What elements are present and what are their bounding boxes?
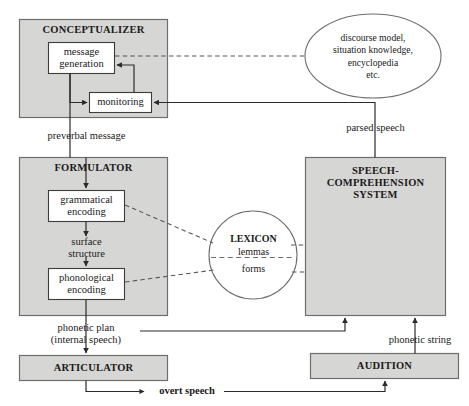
inner-message-generation-box [49, 43, 115, 74]
inner-phonological-encoding-box [49, 269, 125, 300]
edge-parsed-speech-to-monitoring [154, 103, 375, 158]
edge-phonetic-plan-to-scs [140, 318, 345, 331]
module-audition-box [311, 354, 459, 379]
diagram-canvas: CONCEPTUALIZER message generation monito… [0, 0, 469, 406]
inner-monitoring-box [90, 93, 152, 113]
ellipse-lexicon [209, 211, 297, 299]
module-speech-comprehension-box [306, 158, 446, 316]
inner-grammatical-encoding-box [49, 191, 125, 222]
ellipse-knowledge-store [305, 14, 441, 98]
diagram-vector-layer [0, 0, 469, 406]
edge-overt-speech-to-audition [224, 381, 385, 392]
edge-articulator-to-overt-speech [86, 381, 144, 392]
module-articulator-box [20, 356, 168, 381]
